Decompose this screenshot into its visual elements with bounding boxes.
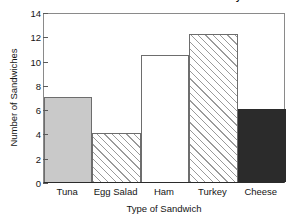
y-tick-14: 14 [43,13,48,14]
y-tick-8: 8 [43,86,48,87]
bar-chart: Number of Sandwiches Sold on Saturday Nu… [0,0,293,218]
y-tick-label: 14 [30,8,41,19]
x-axis-tick-labels: TunaEgg SaladHamTurkeyCheese [43,186,285,200]
bar-series [44,14,284,182]
bar-ham [141,55,189,183]
plot-area [43,13,285,183]
y-tick-10: 10 [43,62,48,63]
x-tick-label-egg-salad: Egg Salad [91,186,139,198]
y-tick-2: 2 [43,159,48,160]
x-tick-label-cheese: Cheese [237,186,285,198]
y-tick-label: 8 [36,81,41,92]
bar-turkey [189,34,237,182]
y-tick-4: 4 [43,134,48,135]
y-tick-label: 6 [36,105,41,116]
y-tick-6: 6 [43,110,48,111]
y-tick-12: 12 [43,37,48,38]
bar-egg-salad [92,133,140,182]
x-tick-label-tuna: Tuna [43,186,91,198]
x-tick-label-ham: Ham [140,186,188,198]
y-tick-label: 0 [36,178,41,189]
y-tick-0: 0 [43,183,48,184]
y-tick-label: 12 [30,32,41,43]
x-axis-label: Type of Sandwich [42,203,286,214]
y-tick-label: 10 [30,57,41,68]
bar-cheese [238,109,286,182]
bar-tuna [44,97,92,182]
x-tick-label-turkey: Turkey [188,186,236,198]
y-tick-label: 4 [36,129,41,140]
chart-title: Number of Sandwiches Sold on Saturday [0,0,293,2]
y-axis-label: Number of Sandwiches [8,23,19,173]
y-tick-label: 2 [36,154,41,165]
